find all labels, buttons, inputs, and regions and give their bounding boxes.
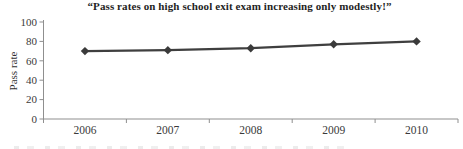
y-tick-label: 0 [32, 113, 38, 125]
data-point-marker [81, 47, 89, 55]
x-tick-label: 2007 [156, 124, 179, 136]
x-tick-label: 2006 [73, 124, 96, 136]
x-tick-label: 2009 [322, 124, 345, 136]
data-point-marker [247, 44, 255, 52]
x-tick-label: 2008 [239, 124, 262, 136]
pass-rate-chart: “Pass rates on high school exit exam inc… [0, 0, 463, 149]
x-tick-label: 2010 [405, 124, 428, 136]
y-tick-label: 20 [26, 93, 38, 105]
y-tick-label: 60 [26, 55, 38, 67]
cropped-caption-remnant [14, 146, 344, 149]
data-point-marker [329, 40, 337, 48]
y-tick-label: 40 [26, 74, 38, 86]
y-tick-label: 100 [21, 16, 38, 28]
y-tick-label: 80 [26, 35, 38, 47]
data-point-marker [412, 37, 420, 45]
data-point-marker [164, 46, 172, 54]
plot-area: 02040608010020062007200820092010 [0, 0, 463, 149]
